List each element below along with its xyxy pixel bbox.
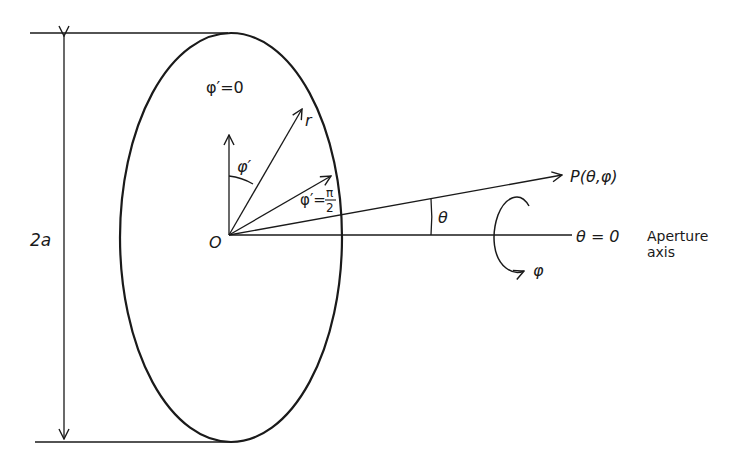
- phi-prime-half-pi-label: φ′= π 2: [300, 186, 336, 215]
- svg-text:2: 2: [326, 201, 334, 215]
- observation-direction-arrow: [229, 175, 562, 235]
- diameter-label: 2a: [30, 230, 51, 250]
- origin-label: O: [209, 233, 222, 252]
- phi-prime-angle-label: φ′: [237, 157, 252, 176]
- phi-rotation-label: φ: [533, 261, 544, 280]
- phi-prime-zero-label: φ′=0: [206, 78, 244, 97]
- theta-zero-label: θ = 0: [576, 227, 620, 246]
- theta-angle-arc: [431, 199, 432, 235]
- aperture-axis-label-line1: Aperture: [647, 228, 708, 244]
- phi-prime-angle-arc: [229, 176, 253, 184]
- radius-label: r: [305, 111, 313, 130]
- theta-angle-label: θ: [438, 208, 448, 227]
- aperture-diagram: 2a φ′=0 r φ′ φ′= π 2 P(θ,φ) θ θ = 0 Aper…: [0, 0, 745, 466]
- svg-text:π: π: [326, 186, 333, 200]
- observation-point-label: P(θ,φ): [570, 167, 618, 186]
- aperture-axis-label-line2: axis: [647, 244, 675, 260]
- svg-text:φ′=: φ′=: [300, 191, 326, 209]
